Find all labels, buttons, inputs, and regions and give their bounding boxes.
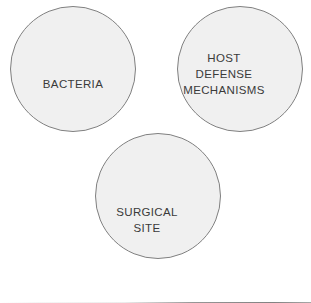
venn-diagram: BACTERIA HOST DEFENSE MECHANISMS SURGICA… bbox=[0, 0, 311, 303]
label-surgical-site-line1: SURGICAL bbox=[116, 206, 178, 218]
circle-bacteria bbox=[11, 7, 136, 132]
label-host-defense-line1: HOST bbox=[207, 52, 240, 64]
label-surgical-site-line2: SITE bbox=[134, 222, 161, 234]
venn-diagram-canvas: BACTERIA HOST DEFENSE MECHANISMS SURGICA… bbox=[0, 0, 311, 303]
label-bacteria: BACTERIA bbox=[43, 78, 103, 90]
label-host-defense-line2: DEFENSE bbox=[196, 68, 253, 80]
label-host-defense-line3: MECHANISMS bbox=[183, 84, 264, 96]
circle-surgical-site bbox=[96, 134, 221, 259]
